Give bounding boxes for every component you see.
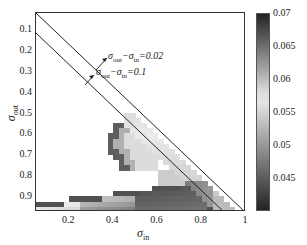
- x-tick-label: 1: [230, 215, 260, 225]
- y-tick-label: 0.2: [8, 45, 32, 55]
- x-tick-label: 0.8: [186, 215, 216, 225]
- colorbar: [256, 13, 270, 211]
- x-tick-label: 0.6: [142, 215, 172, 225]
- y-tick-label: 0.3: [8, 66, 32, 76]
- y-tick-label: 0.8: [8, 170, 32, 180]
- y-tick-label: 0.1: [8, 24, 32, 34]
- colorbar-tick-label: 0.055: [273, 107, 296, 117]
- y-axis-label: σout: [4, 105, 20, 121]
- diagonal-lines: [36, 13, 245, 211]
- colorbar-tick-label: 0.045: [273, 173, 296, 183]
- colorbar-tick-label: 0.06: [273, 74, 291, 84]
- y-tick-label: 0.7: [8, 149, 32, 159]
- y-tick-label: 0.9: [8, 191, 32, 201]
- x-axis-label: σin: [137, 226, 149, 242]
- colorbar-tick-label: 0.05: [273, 140, 291, 150]
- x-tick-label: 0.2: [53, 215, 83, 225]
- x-tick-label: 0.4: [97, 215, 127, 225]
- annotation-line-01: σout−σin=0.1: [96, 66, 146, 80]
- y-tick-label: 0.4: [8, 87, 32, 97]
- colorbar-tick-label: 0.07: [273, 8, 291, 18]
- colorbar-tick-label: 0.065: [273, 41, 296, 51]
- y-tick-label: 0.6: [8, 128, 32, 138]
- heatmap-plot-area: [35, 12, 245, 211]
- annotation-line-002: σout−σin=0.02: [108, 50, 163, 64]
